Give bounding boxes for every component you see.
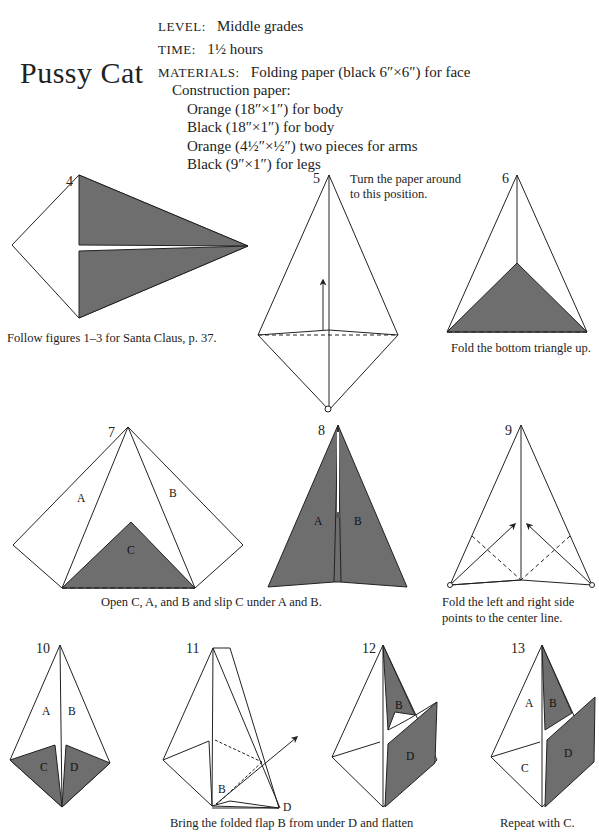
figure-caption: Fold the left and right side xyxy=(442,594,574,610)
flap-label-a: A xyxy=(77,492,85,504)
flap-label-d: D xyxy=(70,761,78,773)
figure-9-diagram xyxy=(448,425,595,588)
figure-caption: Fold the bottom triangle up. xyxy=(451,340,591,356)
flap-label-b: B xyxy=(218,783,226,795)
figure-number: 9 xyxy=(505,423,512,439)
figure-caption: Follow figures 1–3 for Santa Claus, p. 3… xyxy=(7,330,217,346)
figure-number: 7 xyxy=(108,425,115,441)
figure-caption: points to the center line. xyxy=(442,610,562,626)
figure-number: 5 xyxy=(313,171,320,187)
figure-number: 6 xyxy=(502,171,509,187)
figure-13-diagram xyxy=(491,645,595,807)
figure-7-diagram xyxy=(13,427,243,588)
folding-diagrams xyxy=(0,0,599,834)
figure-caption: Open C, A, and B and slip C under A and … xyxy=(101,594,322,610)
figure-number: 4 xyxy=(66,174,73,190)
flap-label-b: B xyxy=(354,515,362,527)
flap-label-b: B xyxy=(68,705,76,717)
figure-number: 13 xyxy=(511,641,525,657)
flap-label-d: D xyxy=(406,750,414,762)
flap-label-d: D xyxy=(283,801,291,813)
figure-10-diagram xyxy=(10,645,110,807)
flap-label-d: D xyxy=(564,747,572,759)
figure-4-diagram xyxy=(12,175,248,318)
figure-caption: Repeat with C. xyxy=(500,815,575,831)
flap-label-a: A xyxy=(525,697,533,709)
figure-number: 8 xyxy=(318,423,325,439)
figure-number: 12 xyxy=(362,641,376,657)
figure-12-diagram xyxy=(332,645,437,807)
flap-label-b: B xyxy=(169,487,177,499)
figure-11-diagram xyxy=(163,648,297,808)
flap-label-b: B xyxy=(549,697,557,709)
figure-number: 10 xyxy=(36,641,50,657)
figure-caption: Bring the folded flap B from under D and… xyxy=(170,815,413,831)
flap-label-c: C xyxy=(40,761,48,773)
flap-label-c: C xyxy=(521,762,529,774)
figure-5-diagram xyxy=(258,175,398,412)
figure-number: 11 xyxy=(186,641,199,657)
flap-label-b: B xyxy=(395,699,403,711)
figure-caption: to this position. xyxy=(350,186,427,202)
flap-label-a: A xyxy=(42,705,50,717)
figure-8-diagram xyxy=(268,425,407,587)
flap-label-a: A xyxy=(314,515,322,527)
figure-caption: Turn the paper around xyxy=(350,171,461,187)
flap-label-c: C xyxy=(127,544,135,556)
figure-6-diagram xyxy=(447,175,587,332)
